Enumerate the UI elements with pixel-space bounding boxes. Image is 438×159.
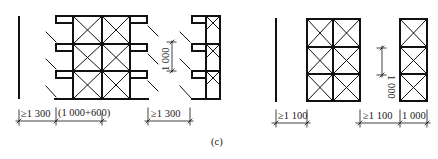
scaffold-frame-double <box>307 19 360 101</box>
scaffold-frame-main <box>55 16 148 99</box>
dim-label-left-gap-between: ≥1 300 <box>151 108 180 119</box>
cross-bracing-single <box>400 19 427 101</box>
dim-label-left-bay: (1 000+600) <box>58 107 111 119</box>
scaffold-layout-diagram: ≥1 300 (1 000+600) ≥1 300 1 000 ≥1 100 ≥… <box>0 0 438 159</box>
figure-caption: (c) <box>211 136 223 148</box>
dim-label-left-gap-wall: ≥1 300 <box>21 108 50 119</box>
dim-label-right-gap-wall: ≥1 100 <box>278 110 307 121</box>
dim-label-left-height: 1 000 <box>160 47 171 71</box>
dim-label-right-gap-between: ≥1 100 <box>363 110 392 121</box>
outrigger-brackets-right <box>130 16 147 78</box>
dimension-height-right <box>377 46 386 77</box>
dim-label-right-height: 1 000 <box>386 75 397 99</box>
dim-label-right-width: 1 000 <box>402 110 426 121</box>
cross-bracing-second <box>206 16 220 85</box>
outrigger-brackets-left <box>56 16 73 78</box>
